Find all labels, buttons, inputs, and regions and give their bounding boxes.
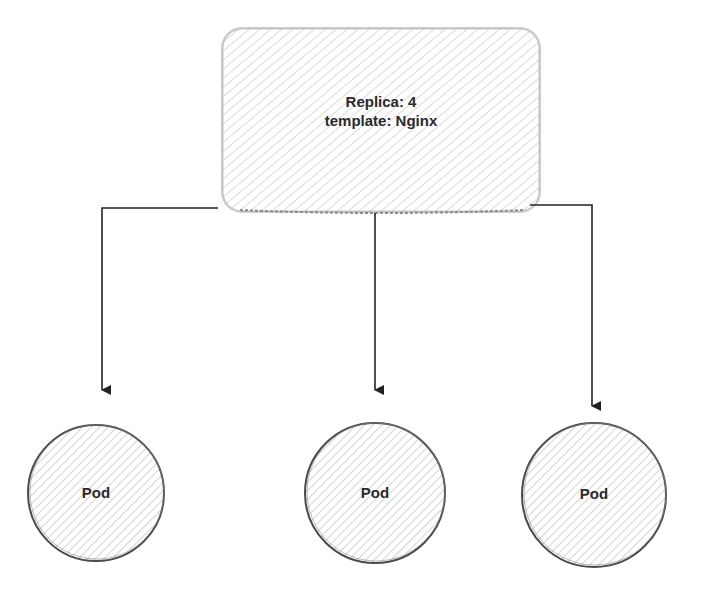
pod-1-label: Pod (46, 484, 146, 501)
replica-count-text: Replica: 4 (222, 92, 540, 111)
template-text: template: Nginx (222, 111, 540, 130)
replicaset-label: Replica: 4 template: Nginx (222, 92, 540, 130)
pod-3-label: Pod (544, 485, 644, 502)
edge-to-pod-3 (530, 205, 592, 406)
edge-to-pod-1 (102, 208, 218, 390)
pod-2-label: Pod (325, 484, 425, 501)
